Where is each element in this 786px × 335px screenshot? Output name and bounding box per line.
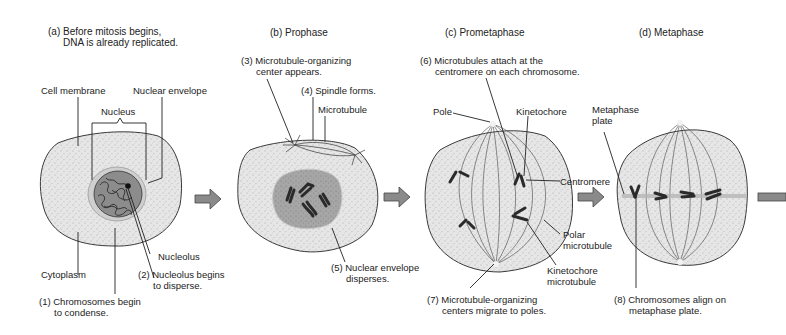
label-step-4: (4) Spindle forms. bbox=[301, 85, 376, 96]
label-nucleolus: Nucleolus bbox=[158, 251, 200, 262]
step-1-line1: (1) Chromosomes begin bbox=[39, 296, 141, 307]
label-step-1: (1) Chromosomes begin to condense. bbox=[39, 296, 141, 318]
label-metaphase-plate: Metaphase plate bbox=[592, 104, 639, 126]
label-step-6: (6) Microtubules attach at the centromer… bbox=[420, 55, 580, 77]
step-6-line2: centromere on each chromosome. bbox=[420, 66, 580, 77]
label-polar-microtubule: Polar microtubule bbox=[563, 229, 612, 251]
step-5-line2: disperses. bbox=[331, 273, 419, 284]
cell-d bbox=[617, 120, 747, 265]
stage-a-title-line1: (a) Before mitosis begins, bbox=[48, 26, 178, 37]
label-microtubule: Microtubule bbox=[318, 104, 367, 115]
step-2-line2: to disperse. bbox=[138, 280, 225, 291]
step-8-line2: metaphase plate. bbox=[614, 305, 726, 316]
step-2-line1: (2) Nucleolus begins bbox=[138, 269, 225, 280]
label-cell-membrane: Cell membrane bbox=[41, 85, 105, 96]
label-cytoplasm: Cytoplasm bbox=[41, 269, 86, 280]
stage-title-d: (d) Metaphase bbox=[639, 27, 703, 38]
cell-c bbox=[425, 121, 572, 272]
label-nucleus: Nucleus bbox=[101, 106, 135, 117]
step-6-line1: (6) Microtubules attach at the bbox=[420, 55, 580, 66]
label-centromere: Centromere bbox=[560, 176, 610, 187]
label-kinetochore: Kinetochore bbox=[516, 106, 567, 117]
label-nuclear-envelope: Nuclear envelope bbox=[133, 85, 207, 96]
label-step-2: (2) Nucleolus begins to disperse. bbox=[138, 269, 225, 291]
label-pole: Pole bbox=[433, 106, 452, 117]
arrow-d-next bbox=[758, 193, 786, 201]
step-3-line1: (3) Microtubule-organizing bbox=[241, 55, 351, 66]
metaphase-plate-line1: Metaphase bbox=[592, 104, 639, 115]
arrow-b-to-c bbox=[384, 187, 410, 207]
step-7-line2: centers migrate to poles. bbox=[427, 305, 546, 316]
label-step-8: (8) Chromosomes align on metaphase plate… bbox=[614, 294, 726, 316]
stage-title-c: (c) Prometaphase bbox=[445, 27, 524, 38]
step-3-line2: center appears. bbox=[241, 66, 351, 77]
cell-a bbox=[40, 132, 181, 246]
label-step-7: (7) Microtubule-organizing centers migra… bbox=[427, 294, 546, 316]
arrow-c-to-d bbox=[578, 187, 604, 207]
cell-b bbox=[238, 135, 378, 252]
label-step-3: (3) Microtubule-organizing center appear… bbox=[241, 55, 351, 77]
metaphase-plate-line2: plate bbox=[592, 115, 639, 126]
step-5-line1: (5) Nuclear envelope bbox=[331, 262, 419, 273]
step-7-line1: (7) Microtubule-organizing bbox=[427, 294, 546, 305]
kinetochore-mt-line2: microtubule bbox=[547, 276, 598, 287]
step-1-line2: to condense. bbox=[39, 307, 141, 318]
stage-a-title-line2: DNA is already replicated. bbox=[48, 37, 178, 48]
label-step-5: (5) Nuclear envelope disperses. bbox=[331, 262, 419, 284]
arrow-a-to-b bbox=[195, 189, 221, 209]
polar-mt-line1: Polar bbox=[563, 229, 612, 240]
label-kinetochore-microtubule: Kinetochore microtubule bbox=[547, 265, 598, 287]
stage-title-a: (a) Before mitosis begins, DNA is alread… bbox=[48, 26, 178, 48]
polar-mt-line2: microtubule bbox=[563, 240, 612, 251]
kinetochore-mt-line1: Kinetochore bbox=[547, 265, 598, 276]
stage-title-b: (b) Prophase bbox=[270, 27, 328, 38]
mitosis-diagram bbox=[0, 0, 786, 335]
step-8-line1: (8) Chromosomes align on bbox=[614, 294, 726, 305]
